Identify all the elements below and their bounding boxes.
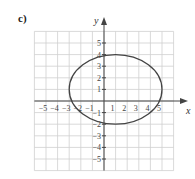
svg-text:−4: −4: [50, 104, 59, 113]
graph: c) −5−4−3−2−11234554321−1−2−3−4−5 x y: [0, 0, 195, 179]
svg-text:2: 2: [122, 104, 126, 113]
svg-text:1: 1: [97, 85, 101, 94]
svg-text:4: 4: [145, 104, 149, 113]
svg-text:−4: −4: [92, 143, 101, 152]
svg-text:2: 2: [97, 74, 101, 83]
svg-text:4: 4: [97, 51, 101, 60]
svg-text:3: 3: [97, 62, 101, 71]
svg-text:3: 3: [134, 104, 138, 113]
svg-text:−1: −1: [92, 109, 101, 118]
svg-text:−5: −5: [92, 155, 101, 164]
y-axis-label: y: [93, 15, 99, 26]
svg-text:1: 1: [111, 104, 115, 113]
svg-text:−3: −3: [62, 104, 71, 113]
svg-text:−5: −5: [39, 104, 48, 113]
svg-text:5: 5: [97, 39, 101, 48]
part-label: c): [18, 12, 27, 25]
x-axis-label: x: [185, 105, 191, 116]
svg-text:−3: −3: [92, 132, 101, 141]
